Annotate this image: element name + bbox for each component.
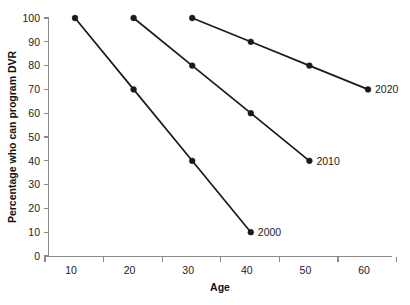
series-2010: 2010 <box>131 15 340 167</box>
x-tick-label: 20 <box>124 264 136 276</box>
y-tick-label: 0 <box>34 250 40 262</box>
data-point <box>248 110 254 116</box>
series-layer: 200020102020 <box>72 15 398 238</box>
data-point <box>307 63 313 69</box>
y-tick-label: 40 <box>28 155 40 167</box>
x-tick-label: 50 <box>300 264 312 276</box>
data-point <box>189 158 195 164</box>
y-tick-label: 50 <box>28 131 40 143</box>
axes-group <box>49 18 393 257</box>
y-axis-ticks: 0102030405060708090100 <box>22 12 48 262</box>
y-tick-label: 60 <box>28 107 40 119</box>
data-point <box>307 158 313 164</box>
data-point <box>189 63 195 69</box>
x-axis-title: Age <box>210 281 230 293</box>
y-tick-label: 70 <box>28 83 40 95</box>
series-line-2020 <box>192 18 368 89</box>
data-point <box>72 15 78 21</box>
y-axis-title: Percentage who can program DVR <box>6 51 18 224</box>
y-tick-label: 10 <box>28 226 40 238</box>
x-tick-label: 30 <box>182 264 194 276</box>
y-tick-label: 90 <box>28 36 40 48</box>
series-label-2010: 2010 <box>316 155 340 167</box>
x-tick-label: 10 <box>65 264 77 276</box>
x-axis-ticks: 102030405060 <box>45 257 397 277</box>
data-point <box>248 39 254 45</box>
y-tick-label: 30 <box>28 178 40 190</box>
data-point <box>365 87 371 93</box>
series-2000: 2000 <box>72 15 281 238</box>
data-point <box>131 15 137 21</box>
data-point <box>248 229 254 235</box>
data-point <box>131 87 137 93</box>
series-2020: 2020 <box>189 15 398 95</box>
y-tick-label: 20 <box>28 202 40 214</box>
chart-container: 0102030405060708090100 102030405060 2000… <box>0 0 410 305</box>
y-tick-label: 100 <box>22 12 40 24</box>
x-tick-label: 40 <box>241 264 253 276</box>
series-label-2020: 2020 <box>375 83 399 95</box>
series-label-2000: 2000 <box>258 226 282 238</box>
series-line-2010 <box>134 18 310 161</box>
y-tick-label: 80 <box>28 59 40 71</box>
data-point <box>189 15 195 21</box>
line-chart: 0102030405060708090100 102030405060 2000… <box>0 0 410 305</box>
x-tick-label: 60 <box>358 264 370 276</box>
series-line-2000 <box>75 18 251 232</box>
